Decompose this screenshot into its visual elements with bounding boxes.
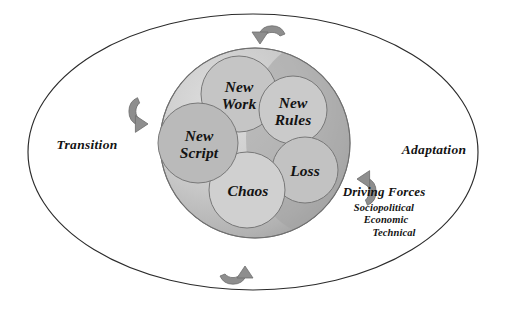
circle-label-new-rules: New Rules <box>247 94 339 129</box>
diagram-canvas: New Work New Rules Loss Chaos New Script… <box>0 0 506 312</box>
driving-forces-item-sociopolitical: Sociopolitical <box>328 202 440 214</box>
driving-forces-item-technical: Technical <box>338 227 450 239</box>
driving-forces-title: Driving Forces <box>328 185 440 200</box>
circle-label-chaos: Chaos <box>202 182 294 199</box>
driving-forces-item-economic: Economic <box>330 214 442 226</box>
label-adaptation: Adaptation <box>388 142 480 157</box>
driving-forces-group: Driving Forces Sociopolitical Economic T… <box>328 185 440 235</box>
circle-label-new-script: New Script <box>152 127 246 162</box>
label-transition: Transition <box>42 137 132 152</box>
circle-label-loss: Loss <box>265 162 345 179</box>
